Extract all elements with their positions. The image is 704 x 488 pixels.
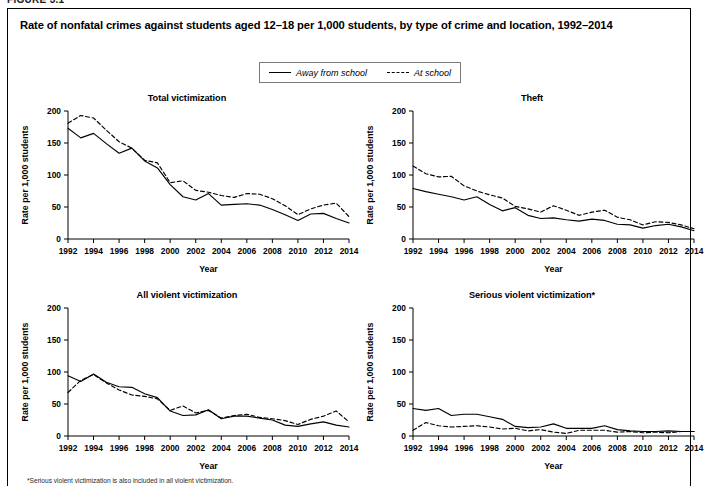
- panel-title: Serious violent victimization*: [360, 290, 704, 300]
- svg-text:50: 50: [397, 202, 407, 212]
- svg-text:Year: Year: [544, 264, 563, 274]
- svg-text:1996: 1996: [455, 443, 474, 453]
- panel-title: Theft: [360, 93, 704, 103]
- svg-text:100: 100: [47, 367, 61, 377]
- figure-bordered-panel: Rate of nonfatal crimes against students…: [7, 8, 691, 486]
- svg-text:0: 0: [401, 234, 406, 244]
- svg-text:150: 150: [47, 335, 61, 345]
- legend-entry-at-school: At school: [387, 68, 451, 78]
- svg-text:0: 0: [56, 431, 61, 441]
- svg-text:2002: 2002: [186, 443, 205, 453]
- figure-title: Rate of nonfatal crimes against students…: [20, 18, 678, 32]
- svg-text:Rate per 1,000 students: Rate per 1,000 students: [365, 323, 375, 422]
- svg-text:2000: 2000: [161, 443, 180, 453]
- svg-text:200: 200: [392, 106, 406, 116]
- svg-text:50: 50: [52, 202, 62, 212]
- line-chart-all-violent-victimization: 0501001502001992199419961998200020022004…: [15, 300, 359, 486]
- svg-text:2008: 2008: [263, 443, 282, 453]
- svg-text:50: 50: [397, 399, 407, 409]
- svg-text:Rate per 1,000 students: Rate per 1,000 students: [365, 126, 375, 225]
- svg-text:2012: 2012: [659, 246, 678, 256]
- svg-text:2000: 2000: [506, 443, 525, 453]
- svg-text:2010: 2010: [634, 246, 653, 256]
- figure-number-label: FIGURE 3.1: [7, 0, 64, 5]
- svg-text:Year: Year: [544, 461, 563, 471]
- svg-text:2006: 2006: [582, 443, 601, 453]
- svg-text:1992: 1992: [404, 246, 423, 256]
- figure-footnote: *Serious violent victimization is also i…: [27, 477, 676, 486]
- svg-text:Rate per 1,000 students: Rate per 1,000 students: [20, 323, 30, 422]
- svg-text:Year: Year: [199, 264, 218, 274]
- line-chart-total-victimization: 0501001502001992199419961998200020022004…: [15, 103, 359, 289]
- svg-text:2014: 2014: [340, 443, 359, 453]
- svg-text:0: 0: [56, 234, 61, 244]
- svg-text:1998: 1998: [480, 246, 499, 256]
- svg-text:1998: 1998: [480, 443, 499, 453]
- svg-text:1994: 1994: [429, 443, 448, 453]
- svg-text:2012: 2012: [659, 443, 678, 453]
- chart-panel-total-victimization: Total victimization 05010015020019921994…: [15, 93, 359, 291]
- svg-text:2012: 2012: [314, 246, 333, 256]
- line-chart-serious-violent-victimization: 0501001502001992199419961998200020022004…: [360, 300, 704, 486]
- svg-text:2006: 2006: [237, 443, 256, 453]
- svg-text:150: 150: [392, 138, 406, 148]
- svg-text:2002: 2002: [186, 246, 205, 256]
- svg-text:2010: 2010: [289, 443, 308, 453]
- svg-text:2006: 2006: [582, 246, 601, 256]
- svg-text:2010: 2010: [289, 246, 308, 256]
- svg-text:Rate per 1,000 students: Rate per 1,000 students: [20, 126, 30, 225]
- svg-text:200: 200: [47, 106, 61, 116]
- chart-panel-serious-violent-victimization: Serious violent victimization* 050100150…: [360, 290, 704, 488]
- svg-text:2004: 2004: [212, 246, 231, 256]
- svg-text:100: 100: [392, 367, 406, 377]
- svg-text:1996: 1996: [455, 246, 474, 256]
- svg-text:Year: Year: [199, 461, 218, 471]
- svg-text:1994: 1994: [84, 443, 103, 453]
- svg-text:2004: 2004: [557, 443, 576, 453]
- svg-text:1992: 1992: [59, 443, 78, 453]
- svg-text:2002: 2002: [531, 246, 550, 256]
- svg-text:2004: 2004: [557, 246, 576, 256]
- legend-line-sample-solid: [269, 72, 291, 73]
- svg-text:50: 50: [52, 399, 62, 409]
- svg-text:1994: 1994: [84, 246, 103, 256]
- svg-text:150: 150: [47, 138, 61, 148]
- svg-text:100: 100: [47, 170, 61, 180]
- svg-text:200: 200: [392, 303, 406, 313]
- svg-text:0: 0: [401, 431, 406, 441]
- svg-text:100: 100: [392, 170, 406, 180]
- legend-entry-away-from-school: Away from school: [269, 68, 367, 78]
- panel-title: Total victimization: [15, 93, 359, 103]
- legend-label-away-from-school: Away from school: [296, 68, 367, 78]
- svg-text:2006: 2006: [237, 246, 256, 256]
- svg-text:2000: 2000: [506, 246, 525, 256]
- chart-panel-theft: Theft 0501001502001992199419961998200020…: [360, 93, 704, 291]
- svg-text:1996: 1996: [110, 246, 129, 256]
- svg-text:1994: 1994: [429, 246, 448, 256]
- panel-title: All violent victimization: [15, 290, 359, 300]
- svg-text:1992: 1992: [59, 246, 78, 256]
- svg-text:2012: 2012: [314, 443, 333, 453]
- svg-text:2014: 2014: [685, 246, 704, 256]
- legend-line-sample-dashed: [387, 72, 409, 73]
- line-chart-theft: 0501001502001992199419961998200020022004…: [360, 103, 704, 289]
- svg-text:2008: 2008: [608, 443, 627, 453]
- legend-label-at-school: At school: [414, 68, 451, 78]
- svg-text:2008: 2008: [263, 246, 282, 256]
- svg-text:2004: 2004: [212, 443, 231, 453]
- svg-text:2008: 2008: [608, 246, 627, 256]
- svg-text:150: 150: [392, 335, 406, 345]
- svg-text:1998: 1998: [135, 443, 154, 453]
- svg-text:1992: 1992: [404, 443, 423, 453]
- svg-text:1996: 1996: [110, 443, 129, 453]
- svg-text:2014: 2014: [340, 246, 359, 256]
- svg-text:200: 200: [47, 303, 61, 313]
- svg-text:2014: 2014: [685, 443, 704, 453]
- svg-text:2010: 2010: [634, 443, 653, 453]
- svg-text:2002: 2002: [531, 443, 550, 453]
- svg-text:1998: 1998: [135, 246, 154, 256]
- chart-legend: Away from school At school: [259, 62, 461, 83]
- svg-text:2000: 2000: [161, 246, 180, 256]
- chart-panel-all-violent-victimization: All violent victimization 05010015020019…: [15, 290, 359, 488]
